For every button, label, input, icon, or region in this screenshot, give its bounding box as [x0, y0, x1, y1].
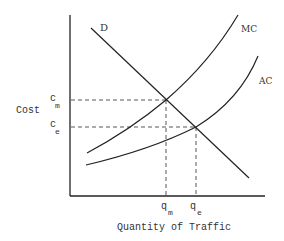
traffic-cost-diagram: D MC AC Cost c m c e q m q e Quantity of… [0, 0, 284, 241]
x-axis-label: Quantity of Traffic [117, 222, 231, 233]
demand-curve [91, 28, 249, 178]
qe-label-base: q [190, 201, 196, 212]
qe-label-sub: e [197, 208, 202, 217]
qm-label-sub: m [168, 208, 173, 217]
mc-label: MC [241, 24, 257, 34]
cm-label-sub: m [55, 101, 60, 110]
y-axis-label: Cost [16, 105, 40, 116]
ce-label-sub: e [55, 127, 60, 136]
mc-curve [87, 15, 238, 153]
demand-label: D [100, 22, 108, 33]
ac-curve [86, 56, 258, 165]
qm-label-base: q [161, 201, 167, 212]
ac-label: AC [258, 76, 272, 86]
